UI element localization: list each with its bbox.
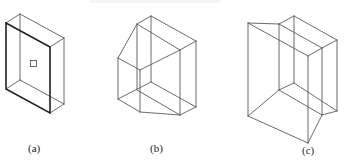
figure-c-label: (c) xyxy=(302,145,314,156)
figure-a-label: (a) xyxy=(28,143,40,154)
figure-b-label: (b) xyxy=(150,143,163,154)
figure-b-chamfered-box xyxy=(118,16,196,115)
wireframe-diagrams xyxy=(0,0,345,164)
figure-c-skewed-box xyxy=(248,16,337,143)
figure-a-box xyxy=(6,14,64,113)
square-marker-icon xyxy=(31,61,37,67)
